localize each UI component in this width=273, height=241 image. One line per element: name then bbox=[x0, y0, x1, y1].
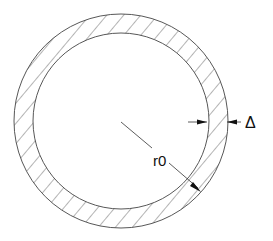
thickness-label: Δ bbox=[245, 114, 256, 131]
radius-label: r0 bbox=[153, 152, 166, 169]
hatched-wall bbox=[0, 0, 273, 241]
tube-cross-section-diagram: r0 Δ bbox=[0, 0, 273, 241]
